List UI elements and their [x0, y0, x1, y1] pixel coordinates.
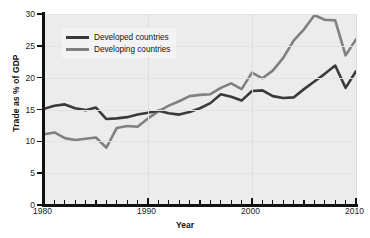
x-axis-tick-label: 1990	[137, 207, 156, 216]
x-axis-tick-minor	[137, 200, 138, 204]
y-axis-tick	[37, 141, 42, 143]
x-axis-tick-minor	[64, 200, 65, 204]
y-axis-tick	[37, 77, 42, 79]
x-axis-tick-major	[251, 198, 253, 204]
x-axis-tick-minor	[158, 200, 159, 204]
gridline-horizontal	[44, 141, 356, 142]
x-axis-tick-major	[355, 198, 357, 204]
x-axis-tick-minor	[231, 200, 232, 204]
y-axis-tick	[37, 45, 42, 47]
x-axis-tick-minor	[272, 200, 273, 204]
legend-item-developed: Developed countries	[66, 31, 170, 43]
y-axis-tick	[37, 109, 42, 111]
x-axis-tick-minor	[106, 200, 107, 204]
x-axis-tick-minor	[210, 200, 211, 204]
x-axis-tick-minor	[179, 200, 180, 204]
x-axis-tick-minor	[189, 200, 190, 204]
x-axis-line	[42, 204, 358, 207]
x-axis-tick-minor	[241, 200, 242, 204]
legend-item-developing: Developing countries	[66, 43, 170, 55]
x-axis-tick-minor	[199, 200, 200, 204]
chart-legend: Developed countries Developing countries	[62, 28, 176, 58]
x-axis-title: Year	[0, 220, 370, 230]
x-axis-tick-label: 2010	[345, 207, 364, 216]
x-axis-tick-minor	[95, 200, 96, 204]
x-axis-tick-minor	[168, 200, 169, 204]
x-axis-tick-minor	[345, 200, 346, 204]
y-axis-tick	[37, 172, 42, 174]
y-axis-tick	[37, 13, 42, 15]
x-axis-tick-minor	[75, 200, 76, 204]
x-axis-tick-label: 2000	[241, 207, 260, 216]
x-axis-tick-minor	[220, 200, 221, 204]
legend-label-developed: Developed countries	[94, 33, 169, 42]
x-axis-tick-minor	[116, 200, 117, 204]
gridline-horizontal	[44, 173, 356, 174]
x-axis-tick-minor	[335, 200, 336, 204]
x-axis-tick-minor	[262, 200, 263, 204]
y-axis-line	[42, 12, 45, 207]
y-axis-tick-label: 5	[17, 169, 35, 177]
x-axis-tick-minor	[324, 200, 325, 204]
legend-swatch-developing	[66, 48, 89, 51]
chart-figure: 051015202530 1980199020002010 Trade as %…	[0, 0, 370, 238]
x-axis-tick-minor	[314, 200, 315, 204]
gridline-horizontal	[44, 78, 356, 79]
x-axis-tick-major	[43, 198, 45, 204]
x-axis-tick-minor	[303, 200, 304, 204]
x-axis-tick-label: 1980	[33, 207, 52, 216]
x-axis-tick-minor	[293, 200, 294, 204]
legend-label-developing: Developing countries	[94, 45, 170, 54]
x-axis-tick-minor	[283, 200, 284, 204]
x-axis-tick-minor	[127, 200, 128, 204]
x-axis-tick-major	[147, 198, 149, 204]
x-axis-tick-minor	[85, 200, 86, 204]
gridline-horizontal	[44, 14, 356, 15]
y-axis-tick-label: 30	[17, 10, 35, 18]
x-axis-tick-minor	[54, 200, 55, 204]
gridline-horizontal	[44, 110, 356, 111]
gridline-vertical	[356, 14, 357, 205]
legend-swatch-developed	[66, 36, 89, 39]
line-developed-countries	[44, 66, 356, 119]
y-axis-title: Trade as % of GDP	[11, 33, 21, 153]
